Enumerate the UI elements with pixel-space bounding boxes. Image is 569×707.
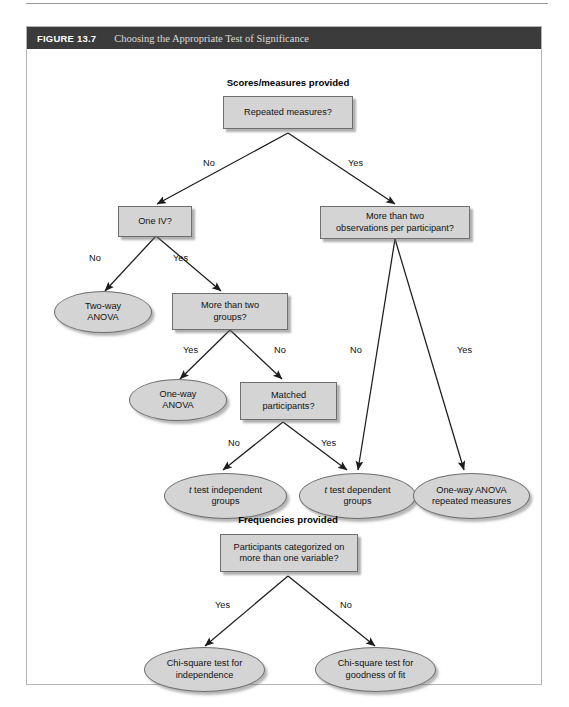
node-label-line1: Chi-square test for	[338, 658, 414, 670]
edge-label-oneiv-yes: Yes	[173, 253, 188, 263]
edge-label-cat-yes: Yes	[215, 600, 230, 610]
node-more-than-two-groups[interactable]: More than two groups?	[172, 293, 288, 330]
edge-label-repeated-no: No	[203, 158, 215, 168]
node-label-line1: Chi-square test for	[167, 658, 243, 670]
figure-number-label: FIGURE 13.7	[37, 33, 96, 44]
node-label-line2: more than one variable?	[239, 553, 338, 565]
node-label-line1: Matched	[271, 390, 306, 402]
node-two-way-anova[interactable]: Two-way ANOVA	[54, 291, 152, 333]
node-label: Repeated measures?	[244, 107, 332, 119]
node-label-line1: More than two	[201, 300, 259, 312]
node-participants-categorized[interactable]: Participants categorized on more than on…	[220, 534, 358, 572]
node-more-than-two-observations[interactable]: More than two observations per participa…	[320, 206, 470, 239]
node-label-line2: independence	[176, 670, 234, 682]
flowchart-connectors	[27, 49, 541, 684]
node-one-way-anova[interactable]: One-way ANOVA	[129, 379, 227, 421]
figure-header: FIGURE 13.7 Choosing the Appropriate Tes…	[27, 27, 541, 49]
node-label-line2: groups?	[213, 312, 246, 324]
node-one-iv[interactable]: One IV?	[118, 206, 192, 237]
node-t-test-independent-groups[interactable]: t test independent groups	[164, 473, 287, 519]
node-label-line1: Two-way	[85, 301, 121, 313]
section-title-scores: Scores/measures provided	[188, 77, 388, 88]
edge-label-groups-no: No	[274, 345, 286, 355]
section-title-frequencies: Frequencies provided	[208, 514, 368, 525]
node-label-line2: ANOVA	[87, 312, 118, 324]
edge-label-oneiv-no: No	[89, 253, 101, 263]
node-matched-participants[interactable]: Matched participants?	[240, 382, 337, 420]
node-label-line1-rest: test independent	[192, 485, 263, 495]
node-t-test-dependent-groups[interactable]: t test dependent groups	[299, 473, 416, 519]
edge-cat-no	[288, 576, 375, 646]
node-repeated-measures[interactable]: Repeated measures?	[223, 96, 353, 129]
edge-label-groups-yes: Yes	[183, 345, 198, 355]
page-top-rule	[26, 3, 548, 4]
figure-page: FIGURE 13.7 Choosing the Appropriate Tes…	[0, 0, 569, 707]
node-label-line1-rest: test dependent	[327, 485, 390, 495]
edge-repeated-yes	[288, 133, 395, 204]
node-label: One IV?	[138, 216, 172, 228]
node-label-line2: groups	[211, 496, 239, 508]
node-label-line2: participants?	[262, 401, 314, 413]
node-chi-square-goodness-of-fit[interactable]: Chi-square test for goodness of fit	[315, 647, 436, 692]
node-label-line1: More than two	[366, 211, 424, 223]
edge-oneiv-yes	[156, 236, 221, 291]
edge-label-matched-yes: Yes	[321, 438, 336, 448]
figure-frame: FIGURE 13.7 Choosing the Appropriate Tes…	[26, 26, 542, 685]
edge-label-obs-no: No	[350, 345, 362, 355]
node-label-line1: One-way ANOVA	[436, 485, 506, 497]
node-one-way-anova-repeated-measures[interactable]: One-way ANOVA repeated measures	[413, 473, 530, 519]
edge-label-cat-no: No	[340, 600, 352, 610]
edge-label-obs-yes: Yes	[457, 345, 472, 355]
node-label-line2: goodness of fit	[346, 670, 406, 682]
node-label-line2: ANOVA	[162, 400, 193, 412]
node-label-line2: repeated measures	[432, 496, 511, 508]
edge-obs-no	[358, 239, 395, 470]
edge-oneiv-no	[105, 236, 156, 291]
edge-matched-yes	[283, 422, 347, 470]
node-label-line1: One-way	[160, 389, 197, 401]
node-chi-square-independence[interactable]: Chi-square test for independence	[144, 647, 265, 692]
edge-label-repeated-yes: Yes	[348, 158, 363, 168]
edge-repeated-no	[157, 133, 288, 204]
node-label-line1: Participants categorized on	[234, 542, 345, 554]
node-label-line2: groups	[343, 496, 371, 508]
node-label-line2: observations per participant?	[336, 223, 454, 235]
edge-obs-yes	[395, 239, 464, 470]
flowchart-canvas: Scores/measures provided Repeated measur…	[27, 49, 541, 684]
node-label-line1: t test independent	[189, 485, 262, 497]
edge-label-matched-no: No	[228, 438, 240, 448]
node-label-line1: t test dependent	[325, 485, 391, 497]
figure-title: Choosing the Appropriate Test of Signifi…	[114, 33, 309, 44]
edge-cat-yes	[205, 576, 288, 646]
